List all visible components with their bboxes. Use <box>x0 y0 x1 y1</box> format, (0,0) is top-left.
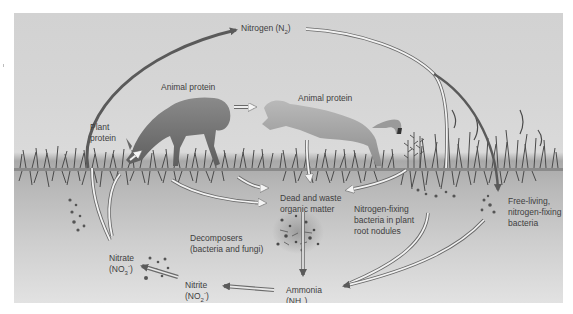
label-dead-waste-matter: Dead and waste organic matter <box>280 193 341 215</box>
label-nitrogen-fixing-nodules: Nitrogen-fixing bacteria in plant root n… <box>354 204 414 237</box>
arrow-nitrogen-to-fixers <box>306 29 498 190</box>
label-nitrate: Nitrate (NO3-) <box>109 253 134 275</box>
arrow-nitrate-to-plant <box>92 152 140 240</box>
scene-illustration <box>14 13 563 303</box>
arrow-ammonia-to-nitrite <box>224 286 274 290</box>
label-animal-protein-cougar: Animal protein <box>298 93 352 104</box>
label-ammonia: Ammonia (NH3) <box>286 285 322 303</box>
label-nitrite: Nitrite (NO2-) <box>185 280 209 302</box>
margin-mark <box>3 64 4 67</box>
label-free-living-bacteria: Free-living, nitrogen-fixing bacteria <box>508 196 561 229</box>
deer <box>126 97 230 166</box>
label-nitrogen: Nitrogen (N2) <box>241 23 291 34</box>
roots <box>19 171 536 191</box>
nitrogen-cycle-diagram: Nitrogen (N2) Animal protein Animal prot… <box>14 13 563 303</box>
label-decomposers: Decomposers (bacteria and fungi) <box>190 233 263 255</box>
ground-line <box>14 168 563 171</box>
label-animal-protein-deer: Animal protein <box>161 82 215 93</box>
cougar <box>262 101 402 166</box>
arrow-nitrite-to-nitrate <box>142 266 178 277</box>
label-plant-protein: Plant protein <box>90 122 116 144</box>
decomposers-cluster <box>272 210 324 254</box>
legume-plant <box>404 132 424 168</box>
